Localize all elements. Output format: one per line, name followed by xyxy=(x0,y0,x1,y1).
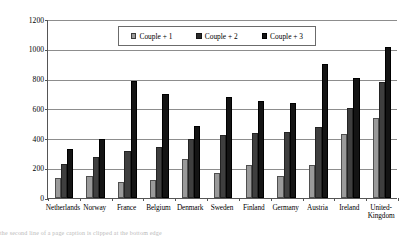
bar-chart: 120010008006004002000 NetherlandsNorwayF… xyxy=(0,0,411,236)
bar-group xyxy=(80,21,112,199)
bar xyxy=(194,126,200,198)
legend-item-label: Couple + 3 xyxy=(270,32,303,41)
legend-item-label: Couple + 1 xyxy=(139,32,172,41)
x-axis-tick-mark xyxy=(48,198,49,201)
bar xyxy=(322,64,328,198)
bar-group xyxy=(334,21,366,199)
y-axis-tick-label: 1200 xyxy=(0,17,44,25)
bar xyxy=(290,103,296,198)
y-axis-tick-label: 400 xyxy=(0,136,44,144)
bar-group xyxy=(112,21,144,199)
bar xyxy=(99,139,105,199)
legend-item: Couple + 2 xyxy=(196,32,237,41)
x-axis-tick-mark xyxy=(143,198,144,201)
bar xyxy=(385,47,391,198)
bar xyxy=(353,78,359,198)
legend-swatch-icon xyxy=(196,33,202,39)
legend-item: Couple + 1 xyxy=(131,32,172,41)
bar xyxy=(131,81,137,198)
y-axis-tick-label: 1000 xyxy=(0,46,44,54)
legend-item: Couple + 3 xyxy=(262,32,303,41)
bar xyxy=(226,97,232,198)
x-axis-tick-mark xyxy=(239,198,240,201)
bar-group xyxy=(366,21,398,199)
y-axis-tick-label: 200 xyxy=(0,165,44,173)
plot-area xyxy=(47,21,397,200)
bar-group xyxy=(175,21,207,199)
x-axis-tick-mark xyxy=(398,198,399,201)
x-axis-tick-mark xyxy=(366,198,367,201)
legend-swatch-icon xyxy=(131,33,137,39)
bar-group xyxy=(48,21,80,199)
bar xyxy=(258,101,264,198)
x-axis-tick-mark xyxy=(175,198,176,201)
bar-group xyxy=(207,21,239,199)
clipped-caption-text: the second line of a page caption is cli… xyxy=(0,230,411,236)
x-axis-tick-mark xyxy=(334,198,335,201)
y-axis-tick-label: 600 xyxy=(0,106,44,114)
x-axis-tick-mark xyxy=(303,198,304,201)
x-axis-tick-mark xyxy=(80,198,81,201)
bar-group xyxy=(303,21,335,199)
y-axis-tick-label: 800 xyxy=(0,76,44,84)
y-axis-tick-label: 0 xyxy=(0,195,44,203)
x-axis-tick-mark xyxy=(112,198,113,201)
x-axis-tick-mark xyxy=(207,198,208,201)
bar xyxy=(67,149,73,198)
bar-group xyxy=(143,21,175,199)
bar-group xyxy=(239,21,271,199)
chart-legend: Couple + 1Couple + 2Couple + 3 xyxy=(118,26,316,46)
legend-swatch-icon xyxy=(262,33,268,39)
bar-group xyxy=(271,21,303,199)
x-axis-category-label: United-​Kingdom xyxy=(359,204,403,221)
x-axis-tick-mark xyxy=(271,198,272,201)
bar xyxy=(162,94,168,198)
legend-item-label: Couple + 2 xyxy=(205,32,238,41)
